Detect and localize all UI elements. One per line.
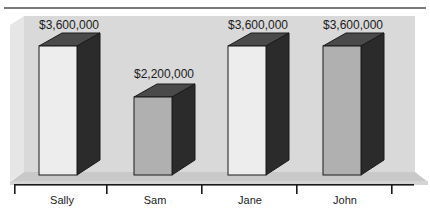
bar-front-face-jane xyxy=(228,46,266,175)
x-axis-tick-1 xyxy=(106,184,108,194)
x-axis-tick-start xyxy=(14,184,16,194)
bar-front-face-john xyxy=(323,46,361,175)
bar-value-label-sam: $2,200,000 xyxy=(134,67,194,81)
plot-side-wall xyxy=(10,16,24,181)
bar-group-sally[interactable] xyxy=(39,33,100,175)
bar-value-label-john: $3,600,000 xyxy=(323,18,383,32)
bar-group-sam[interactable] xyxy=(134,84,195,175)
x-axis-tick-end xyxy=(391,184,393,194)
x-axis-label-jane: Jane xyxy=(238,194,262,206)
bar-side-face-john xyxy=(361,33,384,175)
chart-container: $3,600,000 $2,200,000 $3,600,000 $3,600,… xyxy=(0,0,430,223)
x-axis-label-sam: Sam xyxy=(144,194,167,206)
x-axis-label-john: John xyxy=(333,194,357,206)
bar-group-jane[interactable] xyxy=(228,33,289,175)
bar-value-label-sally: $3,600,000 xyxy=(39,18,99,32)
x-axis-tick-2 xyxy=(201,184,203,194)
bar-side-face-sally xyxy=(77,33,100,175)
x-axis-tick-3 xyxy=(296,184,298,194)
x-axis-label-sally: Sally xyxy=(50,194,74,206)
bar-value-label-jane: $3,600,000 xyxy=(228,18,288,32)
bar-chart-3d: $3,600,000 $2,200,000 $3,600,000 $3,600,… xyxy=(0,0,430,223)
top-rule-divider xyxy=(4,7,426,9)
bar-group-john[interactable] xyxy=(323,33,384,175)
bar-front-face-sam xyxy=(134,97,172,175)
bar-front-face-sally xyxy=(39,46,77,175)
x-axis-line xyxy=(14,184,414,186)
bar-side-face-sam xyxy=(172,84,195,175)
bar-side-face-jane xyxy=(266,33,289,175)
